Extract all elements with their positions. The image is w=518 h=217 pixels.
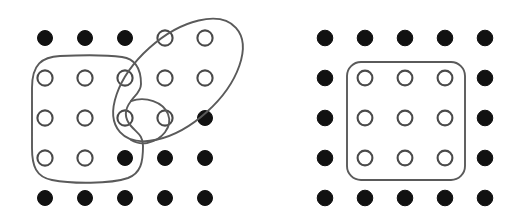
node-filled [477,30,493,46]
node-filled [477,190,493,206]
node-open [197,30,212,45]
node-filled [38,191,53,206]
node-filled [78,191,93,206]
node-open [358,151,373,166]
node-filled [477,150,493,166]
node-filled [158,151,173,166]
node-open [77,150,92,165]
node-filled [317,70,333,86]
node-open [37,150,52,165]
node-open [37,70,52,85]
node-open [197,70,212,85]
node-filled [317,190,333,206]
node-filled [317,110,333,126]
node-open [438,71,453,86]
node-filled [477,110,493,126]
figure-canvas [0,0,518,217]
node-open [358,111,373,126]
node-open [157,70,172,85]
node-filled [317,150,333,166]
node-open [398,71,413,86]
node-filled [477,70,493,86]
node-open [398,151,413,166]
node-open [438,151,453,166]
node-filled [118,191,133,206]
node-filled [357,190,373,206]
node-filled [317,30,333,46]
node-filled [118,31,133,46]
node-open [398,111,413,126]
node-open [77,70,92,85]
node-filled [118,151,133,166]
node-filled [158,191,173,206]
node-filled [198,151,213,166]
node-filled [198,191,213,206]
node-filled [357,30,373,46]
node-filled [437,190,453,206]
node-open [157,110,172,125]
node-open [438,111,453,126]
node-filled [397,30,413,46]
node-filled [397,190,413,206]
node-open [358,71,373,86]
node-filled [78,31,93,46]
node-filled [38,31,53,46]
node-open [37,110,52,125]
node-filled [437,30,453,46]
node-open [77,110,92,125]
